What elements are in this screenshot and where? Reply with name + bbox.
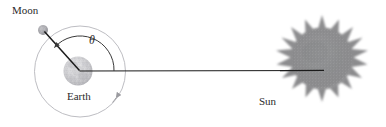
moon-label: Moon (12, 4, 39, 16)
sun-texture-overlay (292, 29, 352, 89)
earth-label: Earth (67, 90, 91, 102)
sun-label: Sun (259, 95, 277, 107)
angle-theta-label: θ (89, 33, 95, 47)
moon-earth-sun-diagram: Moon Earth Sun θ (0, 0, 386, 127)
